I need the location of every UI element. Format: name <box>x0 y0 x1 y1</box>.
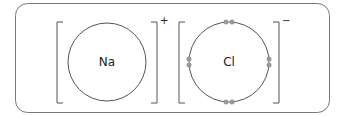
electron-dot <box>187 57 192 62</box>
chloride-charge: − <box>282 15 290 26</box>
electron-dot <box>187 63 192 68</box>
electron-dot <box>230 100 235 105</box>
electron-dot <box>224 20 229 25</box>
electron-dot <box>230 20 235 25</box>
nacl-lewis-diagram: Na + Cl − <box>0 0 344 116</box>
chloride-symbol: Cl <box>223 55 235 69</box>
electron-dot <box>267 63 272 68</box>
electron-dot <box>267 57 272 62</box>
sodium-symbol: Na <box>99 55 115 69</box>
electron-dot <box>224 100 229 105</box>
sodium-charge: + <box>160 15 168 26</box>
